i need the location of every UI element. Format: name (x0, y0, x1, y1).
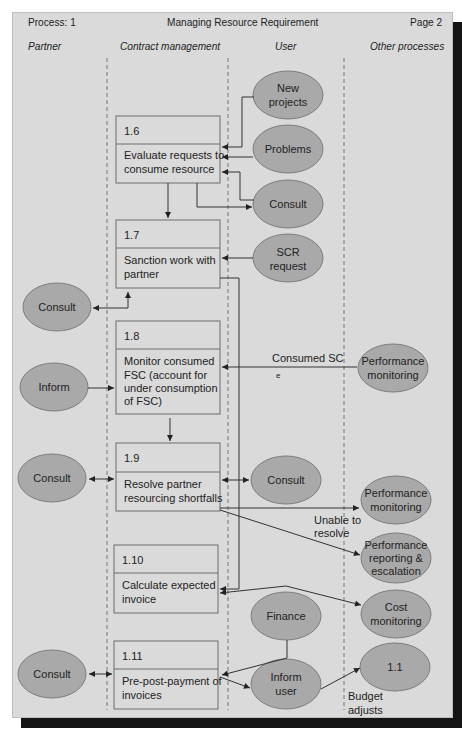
svg-text:FSC (account for: FSC (account for (124, 369, 207, 381)
entity-problems: Problems (253, 125, 323, 173)
entity-scr-request: SCR request (253, 234, 323, 282)
svg-text:Consult: Consult (38, 301, 75, 313)
svg-text:partner: partner (124, 268, 159, 280)
svg-text:escalation: escalation (371, 565, 421, 577)
entity-finance: Finance (251, 592, 321, 640)
svg-text:projects: projects (269, 96, 308, 108)
process-box-1-9: 1.9 Resolve partner resourcing shortfall… (116, 443, 223, 511)
svg-text:Consult: Consult (33, 472, 70, 484)
svg-text:Calculate expected: Calculate expected (122, 579, 216, 591)
svg-text:1.10: 1.10 (122, 554, 143, 566)
svg-text:Performance: Performance (365, 487, 428, 499)
label-unable-to-resolve-2: resolve (314, 527, 349, 539)
entity-new-projects: New projects (253, 71, 323, 119)
process-box-1-7: 1.7 Sanction work with partner (116, 220, 220, 288)
label-budget-adjusts-2: adjusts (348, 704, 383, 716)
svg-text:1.9: 1.9 (124, 452, 139, 464)
label-unable-to-resolve-1: Unable to (314, 514, 361, 526)
svg-text:Problems: Problems (265, 143, 312, 155)
svg-text:request: request (270, 260, 307, 272)
entity-consult-partner-1: Consult (23, 283, 91, 331)
label-budget-adjusts-1: Budget (348, 690, 383, 702)
svg-text:Evaluate requests to: Evaluate requests to (124, 149, 224, 161)
entity-consult-partner-3: Consult (18, 650, 86, 698)
svg-text:reporting &: reporting & (369, 552, 423, 564)
svg-text:1.11: 1.11 (122, 650, 143, 662)
svg-text:under consumption: under consumption (124, 382, 218, 394)
entity-process-1-1: 1.1 (360, 643, 430, 691)
svg-text:resourcing shortfalls: resourcing shortfalls (124, 492, 223, 504)
svg-text:invoice: invoice (122, 593, 156, 605)
svg-text:1.6: 1.6 (124, 125, 139, 137)
entity-consult-user-1: Consult (253, 180, 323, 228)
svg-text:Cost: Cost (385, 601, 408, 613)
svg-text:Consult: Consult (267, 474, 304, 486)
label-consumed-sc-mark: e (276, 371, 281, 380)
entity-performance-monitoring-2: Performance monitoring (361, 476, 431, 524)
svg-text:1.1: 1.1 (387, 661, 402, 673)
process-box-1-10: 1.10 Calculate expected invoice (114, 545, 218, 613)
svg-text:New: New (277, 82, 299, 94)
svg-text:user: user (275, 685, 297, 697)
svg-text:SCR: SCR (276, 246, 299, 258)
svg-text:invoices: invoices (122, 689, 162, 701)
svg-text:Monitor consumed: Monitor consumed (124, 355, 215, 367)
entity-cost-monitoring: Cost monitoring (361, 590, 431, 638)
entity-performance-reporting: Performance reporting & escalation (361, 533, 431, 583)
svg-text:1.8: 1.8 (124, 330, 139, 342)
process-box-1-8: 1.8 Monitor consumed FSC (account for un… (116, 321, 220, 414)
svg-text:Consult: Consult (33, 668, 70, 680)
svg-text:monitoring: monitoring (367, 369, 418, 381)
svg-text:Consult: Consult (269, 198, 306, 210)
entity-performance-monitoring-1: Performance monitoring (358, 344, 428, 392)
svg-text:Inform: Inform (270, 671, 301, 683)
svg-text:Performance: Performance (365, 539, 428, 551)
flow-diagram: 1.6 Evaluate requests to consume resourc… (0, 0, 462, 738)
svg-text:of FSC): of FSC) (124, 395, 162, 407)
entity-inform-user: Inform user (251, 659, 321, 709)
svg-text:consume resource: consume resource (124, 163, 215, 175)
svg-text:Resolve partner: Resolve partner (124, 478, 202, 490)
svg-text:monitoring: monitoring (370, 501, 421, 513)
svg-text:Pre-post-payment of: Pre-post-payment of (122, 675, 223, 687)
entity-inform-partner: Inform (20, 363, 88, 411)
entity-consult-partner-2: Consult (18, 454, 86, 502)
svg-text:Performance: Performance (362, 355, 425, 367)
svg-text:monitoring: monitoring (370, 615, 421, 627)
label-consumed-sc: Consumed SC (272, 352, 344, 364)
entity-consult-user-2: Consult (251, 456, 321, 504)
svg-text:1.7: 1.7 (124, 229, 139, 241)
svg-text:Finance: Finance (266, 610, 305, 622)
svg-text:Inform: Inform (38, 381, 69, 393)
process-box-1-6: 1.6 Evaluate requests to consume resourc… (116, 116, 224, 183)
svg-text:Sanction work with: Sanction work with (124, 254, 216, 266)
process-box-1-11: 1.11 Pre-post-payment of invoices (114, 641, 223, 709)
